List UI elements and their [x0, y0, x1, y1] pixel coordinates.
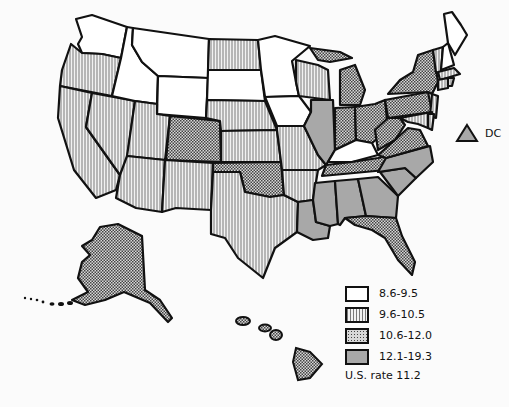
legend-item: 9.6-10.5: [345, 304, 432, 325]
state-fl: [345, 216, 415, 275]
legend-label: 8.6-9.5: [379, 287, 418, 300]
state-de: [428, 114, 434, 130]
state-co: [166, 116, 221, 162]
state-az: [116, 156, 165, 212]
dc-marker: DC: [455, 123, 501, 143]
state-wy: [157, 76, 208, 118]
state-nd: [208, 39, 261, 70]
triangle-icon: [455, 123, 479, 143]
state-ny: [388, 50, 438, 94]
us-rate-note: U.S. rate 11.2: [345, 369, 432, 382]
legend-item: 8.6-9.5: [345, 283, 432, 304]
legend-item: 12.1-19.3: [345, 346, 432, 367]
legend: 8.6-9.5 9.6-10.5 10.6-12.0 12.1-19.3 U.S…: [345, 283, 432, 382]
legend-label: 9.6-10.5: [379, 308, 425, 321]
legend-label: 12.1-19.3: [379, 350, 432, 363]
state-nm: [162, 160, 213, 212]
legend-swatch-gray: [345, 349, 369, 365]
state-ak: [72, 224, 172, 322]
state-ri: [448, 78, 454, 86]
legend-swatch-dots: [345, 328, 369, 344]
state-wa: [76, 15, 127, 58]
state-ct: [438, 78, 448, 90]
us-map: [0, 0, 509, 407]
aleutian-islands: [24, 297, 73, 306]
state-ks: [221, 130, 281, 162]
state-sd: [207, 70, 265, 101]
legend-item: 10.6-12.0: [345, 325, 432, 346]
legend-label: 10.6-12.0: [379, 329, 432, 342]
legend-swatch-white: [345, 286, 369, 302]
state-ms: [313, 181, 338, 226]
state-wi: [296, 60, 330, 100]
state-hi: [236, 317, 322, 380]
legend-swatch-vertical-lines: [345, 307, 369, 323]
dc-label: DC: [485, 127, 501, 140]
